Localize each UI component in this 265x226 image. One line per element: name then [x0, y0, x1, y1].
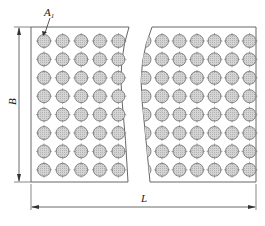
height-label: B: [6, 98, 18, 105]
hole: [154, 125, 170, 141]
arrow-up-icon: [17, 27, 21, 35]
hole: [242, 88, 258, 104]
hole: [55, 143, 71, 159]
hole: [55, 88, 71, 104]
hole: [92, 125, 108, 141]
hole-leader-line: [45, 18, 50, 33]
hole: [224, 107, 240, 123]
hole: [36, 51, 52, 67]
hole: [207, 51, 223, 67]
hole: [36, 33, 52, 49]
hole: [224, 125, 240, 141]
hole: [92, 88, 108, 104]
hole: [55, 162, 71, 178]
hole: [189, 107, 205, 123]
hole: [172, 162, 188, 178]
hole: [92, 33, 108, 49]
hole: [92, 162, 108, 178]
hole: [189, 33, 205, 49]
hole: [55, 125, 71, 141]
hole: [92, 51, 108, 67]
hole: [55, 107, 71, 123]
hole: [172, 107, 188, 123]
arrow-down-icon: [17, 174, 21, 182]
hole: [154, 70, 170, 86]
perforated-plate-diagram: A1 B L: [0, 0, 265, 226]
hole: [207, 143, 223, 159]
hole: [36, 70, 52, 86]
hole: [189, 125, 205, 141]
hole: [55, 33, 71, 49]
hole: [224, 70, 240, 86]
hole: [189, 70, 205, 86]
hole: [224, 51, 240, 67]
plate-left-section: [31, 27, 129, 182]
hole: [207, 107, 223, 123]
hole: [242, 33, 258, 49]
hole: [55, 70, 71, 86]
hole: [73, 162, 89, 178]
hole: [224, 143, 240, 159]
hole: [242, 107, 258, 123]
hole: [110, 88, 126, 104]
hole-grid: [36, 33, 258, 178]
arrow-left-icon: [31, 205, 39, 209]
hole: [172, 51, 188, 67]
hole: [189, 88, 205, 104]
hole: [73, 107, 89, 123]
hole: [207, 70, 223, 86]
hole: [154, 51, 170, 67]
hole: [110, 70, 126, 86]
hole: [224, 88, 240, 104]
hole: [36, 107, 52, 123]
hole: [92, 107, 108, 123]
hole: [172, 143, 188, 159]
hole: [224, 162, 240, 178]
hole: [73, 143, 89, 159]
hole: [207, 125, 223, 141]
hole: [154, 162, 170, 178]
hole: [172, 70, 188, 86]
hole: [189, 162, 205, 178]
hole: [36, 162, 52, 178]
hole: [242, 143, 258, 159]
hole: [73, 33, 89, 49]
hole: [36, 143, 52, 159]
hole: [110, 143, 126, 159]
hole: [55, 51, 71, 67]
hole: [36, 125, 52, 141]
hole: [154, 107, 170, 123]
arrow-right-icon: [248, 205, 256, 209]
hole: [242, 125, 258, 141]
hole: [207, 33, 223, 49]
hole: [36, 88, 52, 104]
length-label: L: [140, 192, 147, 204]
hole: [207, 88, 223, 104]
hole: [172, 88, 188, 104]
plate-right-section: [141, 27, 256, 182]
hole-label: A1: [43, 6, 54, 20]
hole: [110, 51, 126, 67]
hole: [92, 70, 108, 86]
hole: [110, 162, 126, 178]
hole: [154, 88, 170, 104]
hole: [172, 33, 188, 49]
hole: [73, 125, 89, 141]
hole: [224, 33, 240, 49]
hole: [189, 143, 205, 159]
hole: [73, 70, 89, 86]
hole: [242, 51, 258, 67]
hole: [92, 143, 108, 159]
hole: [172, 125, 188, 141]
hole: [154, 143, 170, 159]
hole: [242, 70, 258, 86]
hole: [73, 51, 89, 67]
hole: [154, 33, 170, 49]
hole: [73, 88, 89, 104]
hole: [189, 51, 205, 67]
hole: [207, 162, 223, 178]
hole: [242, 162, 258, 178]
